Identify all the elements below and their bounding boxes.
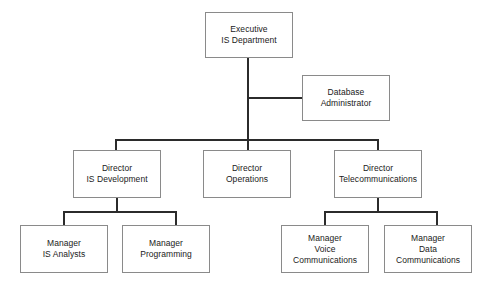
node-manager-is-analysts[interactable]: Manager IS Analysts (20, 225, 108, 273)
node-director-operations-line-1: Director (232, 163, 262, 174)
connector-drop-manager-programming (175, 211, 177, 225)
connector-bus-telecommunications (324, 211, 438, 213)
connector-drop-director-operations (247, 139, 249, 150)
node-manager-voice-communications-line-2: Voice (314, 244, 335, 255)
node-director-is-development-line-1: Director (102, 163, 132, 174)
node-director-telecommunications-line-1: Director (363, 163, 393, 174)
node-manager-is-analysts-line-1: Manager (47, 238, 81, 249)
connector-stem-is-development (116, 198, 118, 211)
node-manager-is-analysts-line-2: IS Analysts (43, 249, 86, 260)
node-manager-programming-line-1: Manager (149, 238, 183, 249)
connector-executive-trunk (247, 58, 249, 141)
node-executive-line-2: IS Department (221, 35, 276, 46)
connector-bus-is-development (63, 211, 177, 213)
node-manager-data-communications-line-3: Communications (396, 255, 460, 266)
node-director-is-development-line-2: IS Development (86, 174, 147, 185)
node-director-operations[interactable]: Director Operations (203, 150, 291, 198)
node-manager-programming[interactable]: Manager Programming (122, 225, 210, 273)
node-database-administrator-line-2: Administrator (321, 98, 372, 109)
node-manager-programming-line-2: Programming (140, 249, 192, 260)
node-manager-voice-communications-line-1: Manager (308, 233, 342, 244)
node-manager-voice-communications-line-3: Communications (293, 255, 357, 266)
node-executive-line-1: Executive (230, 24, 267, 35)
connector-drop-director-telecommunications (377, 139, 379, 150)
node-executive[interactable]: Executive IS Department (205, 12, 293, 58)
connector-drop-manager-is-analysts (63, 211, 65, 225)
node-director-is-development[interactable]: Director IS Development (73, 150, 161, 198)
org-chart-canvas: Executive IS Department Database Adminis… (0, 0, 492, 286)
connector-drop-director-is-development (115, 139, 117, 150)
connector-stem-telecommunications (377, 198, 379, 211)
connector-drop-manager-voice-communications (324, 211, 326, 225)
node-director-telecommunications[interactable]: Director Telecommunications (334, 150, 422, 198)
node-database-administrator-line-1: Database (328, 87, 365, 98)
node-manager-data-communications-line-2: Data (419, 244, 437, 255)
node-manager-data-communications-line-1: Manager (411, 233, 445, 244)
node-database-administrator[interactable]: Database Administrator (302, 75, 390, 121)
node-manager-data-communications[interactable]: Manager Data Communications (384, 225, 472, 273)
node-director-operations-line-2: Operations (226, 174, 268, 185)
connector-drop-manager-data-communications (436, 211, 438, 225)
connector-executive-to-database-administrator (247, 97, 302, 99)
node-manager-voice-communications[interactable]: Manager Voice Communications (281, 225, 369, 273)
node-director-telecommunications-line-2: Telecommunications (339, 174, 417, 185)
